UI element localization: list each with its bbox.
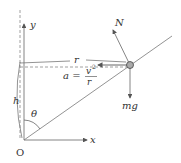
physics-diagram: y x O h θ r a = v 2 r N mg [0,0,181,163]
accel-formula-num: v [86,66,91,76]
radius-label: r [74,54,80,65]
cone-surface-line [24,36,172,140]
radius-line [20,61,70,63]
normal-force-label: N [114,17,125,28]
gravity-label: mg [122,100,138,111]
height-label: h [13,95,19,106]
origin-label: O [16,147,24,158]
radius-line-right [86,60,126,62]
angle-arc [24,120,40,129]
accel-formula-lhs: a = [63,70,81,81]
x-axis-label: x [90,134,96,145]
angle-label: θ [31,108,37,119]
normal-force-arrow [113,30,130,65]
accel-formula-den: r [87,77,92,87]
ball [127,62,134,69]
accel-formula-exp: 2 [92,63,96,70]
y-axis-label: y [29,19,36,30]
